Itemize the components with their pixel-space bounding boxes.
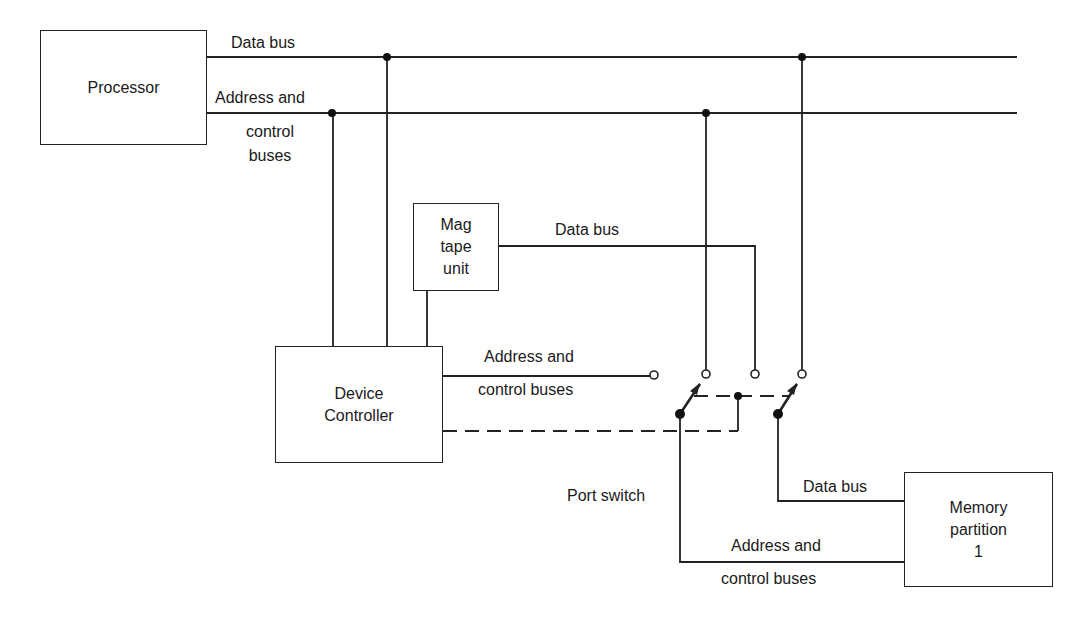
mag-tape-label-2: tape: [440, 236, 471, 258]
mem-address-label-2: control buses: [721, 569, 816, 589]
mag-tape-label-1: Mag: [440, 214, 471, 236]
processor-label: Processor: [87, 77, 159, 99]
switch-arrow-left: [690, 383, 700, 395]
contact-mag-data: [751, 370, 759, 378]
switch-arrow-right: [787, 383, 797, 395]
junction-dot: [383, 53, 391, 61]
top-address-label-2: control: [235, 122, 305, 142]
mag-tape-block: Mag tape unit: [413, 203, 499, 291]
mag-data-bus-label: Data bus: [555, 220, 619, 240]
top-address-label-3: buses: [235, 146, 305, 166]
memory-partition-block: Memory partition 1: [904, 472, 1053, 587]
port-switch-label: Port switch: [567, 486, 645, 506]
dc-address-label-2: control buses: [478, 380, 573, 400]
top-data-bus-label: Data bus: [231, 33, 295, 53]
switch-pivot: [773, 409, 783, 419]
junction-dot: [328, 109, 336, 117]
contact-sys-data: [798, 370, 806, 378]
device-controller-label-1: Device: [335, 383, 384, 405]
mem-address-label-1: Address and: [731, 536, 821, 556]
junction-dot: [798, 53, 806, 61]
mem-data-bus-label: Data bus: [803, 477, 867, 497]
contact-dc-address: [650, 371, 658, 379]
junction-dot: [734, 392, 742, 400]
device-controller-block: Device Controller: [275, 346, 443, 463]
dc-address-label-1: Address and: [484, 347, 574, 367]
top-address-label-1: Address and: [215, 88, 305, 108]
device-controller-label-2: Controller: [324, 405, 393, 427]
memory-label-1: Memory: [950, 497, 1008, 519]
memory-label-2: partition: [950, 519, 1007, 541]
mag-tape-label-3: unit: [443, 258, 469, 280]
switch-pivot: [675, 409, 685, 419]
processor-block: Processor: [40, 30, 207, 145]
memory-label-3: 1: [974, 541, 983, 563]
junction-dot: [702, 109, 710, 117]
contact-sys-address: [702, 370, 710, 378]
